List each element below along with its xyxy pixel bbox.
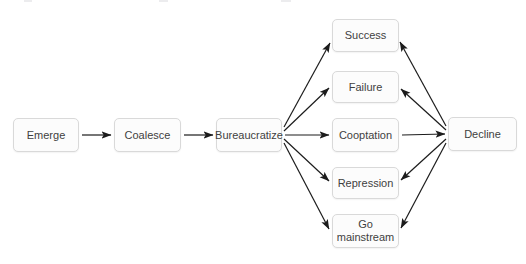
arrow-bureaucratize-failure xyxy=(284,88,329,131)
node-go-mainstream-label: Go mainstream xyxy=(334,218,397,244)
arrow-decline-go-mainstream xyxy=(401,143,446,228)
arrow-bureaucratize-repression xyxy=(284,139,329,181)
node-bureaucratize: Bureaucratize xyxy=(216,118,282,152)
node-emerge: Emerge xyxy=(13,118,79,152)
node-decline: Decline xyxy=(448,117,517,151)
node-bureaucratize-label: Bureaucratize xyxy=(215,129,283,142)
node-success: Success xyxy=(332,19,399,52)
arrow-decline-success xyxy=(400,42,446,126)
node-go-mainstream: Go mainstream xyxy=(332,214,399,248)
node-cooptation-label: Cooptation xyxy=(339,129,392,142)
node-cooptation: Cooptation xyxy=(332,118,399,152)
arrow-decline-repression xyxy=(401,139,446,180)
node-success-label: Success xyxy=(345,29,387,42)
node-failure-label: Failure xyxy=(349,81,383,94)
node-emerge-label: Emerge xyxy=(27,129,66,142)
node-decline-label: Decline xyxy=(464,128,501,141)
node-repression: Repression xyxy=(332,167,399,199)
arrow-cooptation-decline xyxy=(402,134,445,135)
node-failure: Failure xyxy=(332,71,399,103)
arrow-decline-failure xyxy=(401,89,446,130)
arrow-bureaucratize-success xyxy=(284,43,330,127)
node-coalesce-label: Coalesce xyxy=(125,129,171,142)
node-coalesce: Coalesce xyxy=(114,118,181,152)
arrow-bureaucratize-go-mainstream xyxy=(284,143,329,229)
node-repression-label: Repression xyxy=(338,177,394,190)
stages-of-social-movements-flowchart: Emerge Coalesce Bureaucratize Success Fa… xyxy=(0,0,526,264)
